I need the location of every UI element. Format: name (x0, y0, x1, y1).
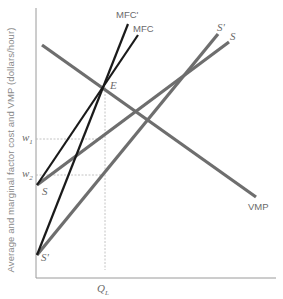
s-prime-top-label: S' (217, 22, 225, 33)
w2-subscript: 2 (29, 174, 33, 182)
ql-base: Q (97, 282, 105, 294)
w1-tick-label: w1 (22, 132, 33, 146)
vmp-label: VMP (248, 202, 269, 212)
s-prime-start-label: S' (41, 252, 49, 263)
y-axis-label: Average and marginal factor cost and VMP… (5, 20, 19, 280)
s-top-label: S (230, 31, 236, 42)
equilibrium-point-e-label: E (110, 80, 117, 91)
vmp-curve (42, 45, 256, 197)
mfc-label: MFC (133, 24, 154, 34)
ql-subscript: L (105, 289, 109, 297)
mfc-prime-label: MFC' (116, 10, 138, 20)
mfc-prime-curve (37, 24, 128, 255)
ql-tick-label: QL (97, 283, 109, 297)
w2-tick-label: w2 (22, 168, 33, 182)
mfc-curve (37, 35, 138, 185)
s-start-label: S (42, 186, 48, 197)
w1-subscript: 1 (29, 138, 33, 146)
